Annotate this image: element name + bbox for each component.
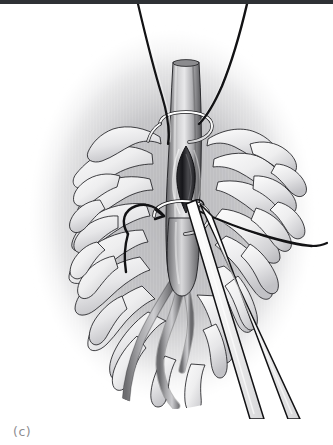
figure-caption-label: (c) [13, 424, 31, 439]
illustration-canvas [0, 4, 333, 419]
figure-panel: (c) [0, 0, 333, 445]
surgical-illustration [0, 4, 333, 419]
